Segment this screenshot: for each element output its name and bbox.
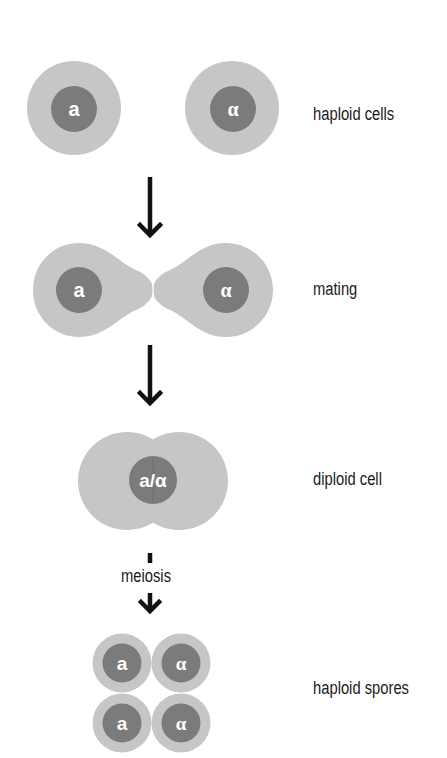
mating-group: a α [33,243,273,337]
stage-label-mating: mating [313,279,357,299]
haploid-cells-group: a α [27,61,279,155]
stage-label-haploid-cells: haploid cells [313,104,394,124]
arrow-down-icon [140,345,160,403]
transition-label-meiosis: meiosis [121,566,171,586]
diploid-cell: a/α [78,432,228,530]
spore-a-bottom: a [93,694,152,753]
mating-cell-a: a [33,243,153,337]
yeast-life-cycle-diagram: a α a α [0,0,447,758]
spore-alpha-top: α [152,634,211,693]
stage-label-diploid-cell: diploid cell [313,469,382,489]
mating-type-label: a/α [139,470,167,491]
diploid-cell-group: a/α [78,432,228,530]
mating-type-label: α [227,98,238,120]
mating-cell-alpha: α [153,243,273,337]
mating-type-label: a [117,653,128,674]
stage-label-haploid-spores: haploid spores [313,678,409,698]
arrow-down-icon [140,177,160,235]
mating-type-label: a [68,98,80,120]
spore-alpha-bottom: α [152,694,211,753]
mating-type-label-text: a/α [139,470,167,491]
spore-a-top: a [93,634,152,693]
mating-type-label: a [73,279,85,301]
mating-type-label: α [176,653,187,674]
mating-type-label: α [176,713,187,734]
haploid-cell-alpha: α [185,61,279,155]
haploid-cell-a: a [27,61,121,155]
haploid-spores-group: a α a α [93,634,211,753]
mating-type-label: a [117,713,128,734]
mating-type-label: α [220,279,231,301]
